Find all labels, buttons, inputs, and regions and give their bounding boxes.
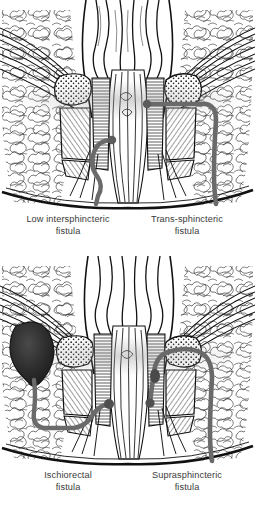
internal-opening-right	[143, 100, 151, 108]
anorectal-fistula-figure: Low intersphincteric fistula Trans-sphin…	[0, 0, 255, 506]
caption-trans-sphincteric: Trans-sphincteric fistula	[131, 214, 243, 248]
lower-panel-illustration	[0, 256, 255, 466]
caption-line-1: Suprasphincteric	[152, 470, 222, 480]
lower-panel-captions: Ischiorectal fistula Suprasphincteric fi…	[0, 470, 255, 504]
external-anal-sphincter-right	[166, 108, 196, 180]
caption-suprasphincteric: Suprasphincteric fistula	[131, 470, 243, 504]
intersphincteric-node	[150, 369, 160, 383]
upper-panel-illustration	[0, 0, 255, 210]
caption-line-1: Trans-sphincteric	[151, 214, 223, 224]
upper-panel: Low intersphincteric fistula Trans-sphin…	[0, 0, 255, 250]
caption-line-1: Low intersphincteric	[26, 214, 109, 224]
caption-line-2: fistula	[131, 482, 243, 494]
caption-line-2: fistula	[12, 482, 124, 494]
caption-line-1: Ischiorectal	[44, 470, 92, 480]
lower-panel: Ischiorectal fistula Suprasphincteric fi…	[0, 256, 255, 506]
internal-opening-left	[108, 136, 116, 144]
internal-opening-left	[104, 399, 114, 409]
internal-opening-right	[145, 398, 154, 407]
external-anal-sphincter-left	[60, 108, 90, 180]
upper-panel-captions: Low intersphincteric fistula Trans-sphin…	[0, 214, 255, 248]
caption-low-intersphincteric: Low intersphincteric fistula	[12, 214, 124, 248]
caption-line-2: fistula	[12, 226, 124, 238]
caption-line-2: fistula	[131, 226, 243, 238]
external-anal-sphincter-right	[166, 370, 196, 436]
caption-ischiorectal: Ischiorectal fistula	[12, 470, 124, 504]
